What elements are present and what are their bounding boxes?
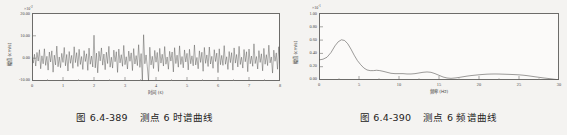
left-y-axis-title: 幅值 (cm/s) [8,43,12,66]
left-xtick-4: 4 [148,84,164,88]
right-x-axis-title: 频率 (Hz) [399,90,479,94]
left-caption-text: 测点 6 时谱曲线 [140,112,214,123]
left-xtick-5: 5 [179,84,195,88]
right-ytick-0: 0.00 [296,77,317,81]
right-xtick-4: 20 [471,83,487,87]
left-xtick-marks [32,77,280,81]
right-xtick-5: 25 [511,83,527,87]
left-ytick-3: 20.00 [10,12,30,16]
left-figure-caption: 图 6.4-389测点 6 时谱曲线 [0,110,290,124]
left-ytick-marks [32,14,36,81]
right-xtick-3: 15 [431,83,447,87]
right-xtick-1: 5 [351,83,367,87]
figure-left: ×10-2 20.00 10.00 0.00 -10.00 幅值 (cm/s) [0,0,290,135]
figure-right: ×10-1 1.00 0.80 0.60 0.40 0.20 0.00 幅值 (… [290,0,567,135]
right-figure-caption: 图 6.4-390测点 6 频谱曲线 [290,110,567,124]
right-ytick-2: 0.40 [296,51,317,55]
left-ytick-2: 10.00 [10,34,30,38]
left-caption-number: 图 6.4-389 [76,112,128,123]
right-xtick-marks [319,76,559,80]
right-xtick-0: 0 [311,83,327,87]
left-xtick-3: 3 [117,84,133,88]
right-ytick-3: 0.60 [296,38,317,42]
left-ytick-0: -10.00 [8,78,30,82]
right-xtick-6: 30 [551,83,567,87]
right-ytick-4: 0.80 [296,25,317,29]
right-ytick-1: 0.20 [296,64,317,68]
left-xtick-6: 6 [210,84,226,88]
left-x-axis-title: 时间 (s) [116,91,196,95]
right-ytick-5: 1.00 [296,12,317,16]
right-caption-number: 图 6.4-390 [360,112,412,123]
right-caption-text: 测点 6 频谱曲线 [423,112,497,123]
right-y-axis-title: 幅值 (cm/s) [294,41,298,64]
left-xtick-0: 0 [24,84,40,88]
right-spectrum-trace [319,40,559,80]
left-xtick-1: 1 [55,84,71,88]
left-xtick-2: 2 [86,84,102,88]
right-spectrum-svg [319,13,559,80]
left-ytick-1: 0.00 [10,56,30,60]
left-xtick-7: 7 [241,84,257,88]
left-waveform-svg [32,13,280,81]
left-signal-trace [32,35,280,81]
left-xtick-8: 8 [272,84,288,88]
right-y-exponent: ×10-1 [312,5,321,10]
figure-sheet: ×10-2 20.00 10.00 0.00 -10.00 幅值 (cm/s) [0,0,567,135]
right-xtick-2: 10 [391,83,407,87]
right-ytick-marks [319,14,323,80]
